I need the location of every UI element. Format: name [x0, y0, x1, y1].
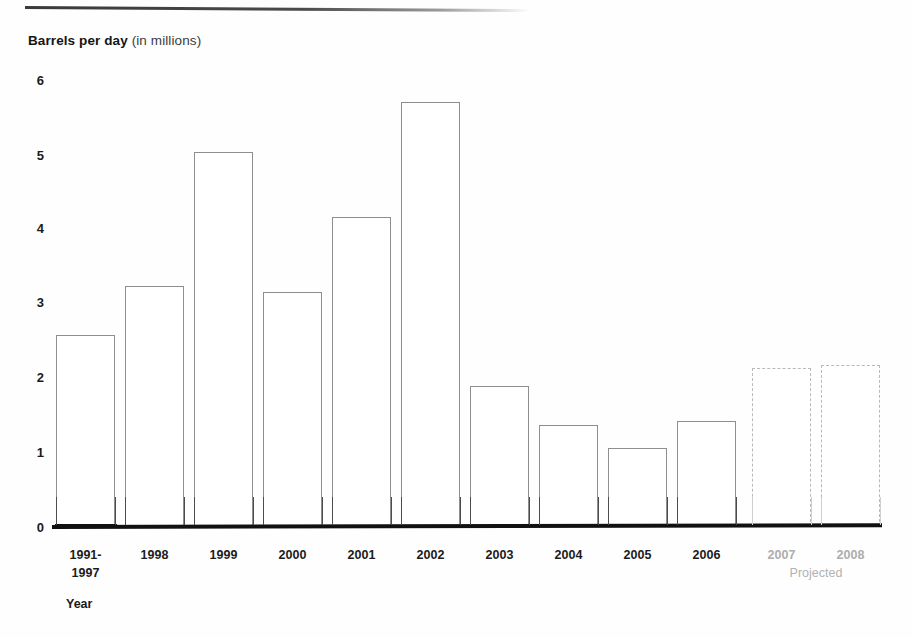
- x-tick-label-2003: 2003: [486, 546, 514, 564]
- x-tick-label-1999: 1999: [210, 546, 238, 564]
- x-axis-tick: [332, 497, 333, 525]
- x-tick-label-2006: 2006: [693, 546, 721, 564]
- x-axis-tick: [608, 497, 609, 525]
- x-axis-tick: [677, 497, 678, 525]
- bar-2004: [539, 425, 598, 527]
- x-axis-baseline: [52, 523, 882, 529]
- projected-note-label: Projected: [790, 566, 843, 580]
- bar-2006: [677, 421, 736, 527]
- x-axis-tick: [598, 497, 599, 525]
- y-tick-label: 4: [22, 221, 44, 236]
- bar-1998: [125, 286, 184, 527]
- x-axis-tick: [460, 497, 461, 525]
- x-tick-label-2005: 2005: [624, 546, 652, 564]
- x-axis-tick: [667, 497, 668, 525]
- y-tick-label: 1: [22, 445, 44, 460]
- y-tick-label: 2: [22, 370, 44, 385]
- y-tick-label: 3: [22, 295, 44, 310]
- y-tick-label: 5: [22, 148, 44, 163]
- x-axis-tick: [253, 497, 254, 525]
- x-axis-tick: [115, 497, 116, 525]
- bar-1999: [194, 152, 253, 527]
- x-tick-label-2008: 2008: [837, 546, 865, 564]
- x-tick-label-2007: 2007: [768, 546, 796, 564]
- y-tick-label: 6: [22, 73, 44, 88]
- x-axis-tick: [401, 497, 402, 525]
- x-tick-label-1991-1997: 1991- 1997: [70, 546, 102, 582]
- x-axis-tick: [529, 497, 530, 525]
- x-axis-tick: [263, 497, 264, 525]
- x-axis-tick: [821, 497, 822, 525]
- x-axis-tick: [752, 497, 753, 525]
- x-axis-tick: [736, 497, 737, 525]
- x-axis-caption: Year: [66, 597, 92, 611]
- x-axis-tick: [539, 497, 540, 525]
- x-tick-label-2000: 2000: [279, 546, 307, 564]
- chart-page: Barrels per day (in millions) 6543210 19…: [0, 0, 912, 638]
- x-axis-tick: [811, 497, 812, 525]
- x-tick-label-2002: 2002: [417, 546, 445, 564]
- x-axis-tick: [322, 497, 323, 525]
- bar-2003: [470, 386, 529, 527]
- bar-2001: [332, 217, 391, 527]
- x-tick-label-1998: 1998: [141, 546, 169, 564]
- x-tick-label-2004: 2004: [555, 546, 583, 564]
- x-axis-tick: [56, 497, 57, 525]
- bar-2005: [608, 448, 667, 527]
- bar-1991-1997: [56, 335, 115, 527]
- y-tick-label: 0: [22, 520, 44, 535]
- x-axis-tick: [470, 497, 471, 525]
- bar-2000: [263, 292, 322, 527]
- x-axis-tick: [125, 497, 126, 525]
- x-axis-tick: [391, 497, 392, 525]
- x-axis-tick: [880, 497, 881, 525]
- plot-area: 6543210 1991- 19971998199920002001200220…: [0, 0, 912, 638]
- x-tick-label-2001: 2001: [348, 546, 376, 564]
- x-axis-tick: [184, 497, 185, 525]
- bar-2007: [752, 368, 811, 527]
- bar-2008: [821, 365, 880, 527]
- x-axis-tick: [194, 497, 195, 525]
- bar-2002: [401, 102, 460, 527]
